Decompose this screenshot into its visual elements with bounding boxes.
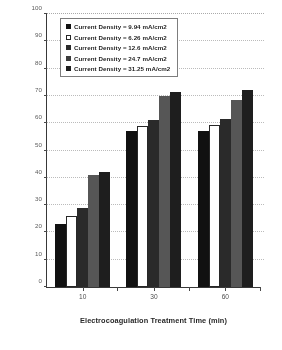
bar [159, 96, 170, 287]
y-axis-tick-label: 70 [35, 85, 47, 92]
legend-item-label: Current Density = 24.7 mA/cm2 [74, 55, 167, 62]
y-axis-tick-label: 100 [31, 4, 47, 11]
bar [148, 120, 159, 287]
legend-swatch-icon [66, 24, 71, 29]
legend-item-label: Current Density = 6.26 mA/cm2 [74, 34, 167, 41]
bar [242, 90, 253, 287]
bar-chart-figure: Removal Effeciency (%) 01020304050607080… [0, 0, 282, 350]
bar [209, 125, 220, 287]
chart-legend: Current Density = 9.94 mA/cm2 Current De… [60, 18, 178, 77]
bar [77, 208, 88, 287]
y-axis-tick-label: 80 [35, 58, 47, 65]
plot-area: 0102030405060708090100 103060 Current De… [46, 14, 261, 288]
x-axis-group-separator [117, 287, 118, 291]
bar [170, 92, 181, 287]
bar [231, 100, 242, 287]
legend-swatch-icon [66, 56, 71, 61]
legend-item: Current Density = 12.6 mA/cm2 [66, 44, 170, 51]
y-axis-tick-label: 0 [38, 277, 47, 284]
x-axis-tick-label: 10 [47, 293, 118, 300]
y-axis-tick-label: 40 [35, 167, 47, 174]
legend-item-label: Current Density = 31.25 mA/cm2 [74, 65, 170, 72]
y-axis-tick-label: 60 [35, 113, 47, 120]
bar [220, 119, 231, 287]
x-axis-group-separator [189, 287, 190, 291]
bar [126, 131, 137, 287]
x-axis-group-separator [260, 287, 261, 291]
legend-item-label: Current Density = 9.94 mA/cm2 [74, 23, 167, 30]
bar [198, 131, 209, 287]
legend-item: Current Density = 31.25 mA/cm2 [66, 65, 170, 72]
bar [88, 175, 99, 287]
legend-swatch-icon [66, 35, 71, 40]
legend-item: Current Density = 6.26 mA/cm2 [66, 34, 170, 41]
x-axis-tick-mark [225, 287, 226, 291]
y-axis-tick-label: 90 [35, 31, 47, 38]
bar [66, 216, 77, 287]
bar [99, 172, 110, 287]
legend-item: Current Density = 9.94 mA/cm2 [66, 23, 170, 30]
bar-group: 60 [190, 14, 261, 287]
y-axis-tick-label: 50 [35, 140, 47, 147]
x-axis-tick-label: 60 [190, 293, 261, 300]
x-axis-tick-mark [83, 287, 84, 291]
legend-swatch-icon [66, 45, 71, 50]
x-axis-tick-label: 30 [118, 293, 189, 300]
bar [137, 126, 148, 287]
x-axis-title: Electrocoagulation Treatment Time (min) [46, 316, 261, 325]
bar [55, 224, 66, 287]
legend-item: Current Density = 24.7 mA/cm2 [66, 55, 170, 62]
y-axis-tick-label: 30 [35, 195, 47, 202]
y-axis-tick-label: 10 [35, 249, 47, 256]
y-axis-tick-label: 20 [35, 222, 47, 229]
x-axis-tick-mark [154, 287, 155, 291]
legend-swatch-icon [66, 66, 71, 71]
legend-item-label: Current Density = 12.6 mA/cm2 [74, 44, 167, 51]
